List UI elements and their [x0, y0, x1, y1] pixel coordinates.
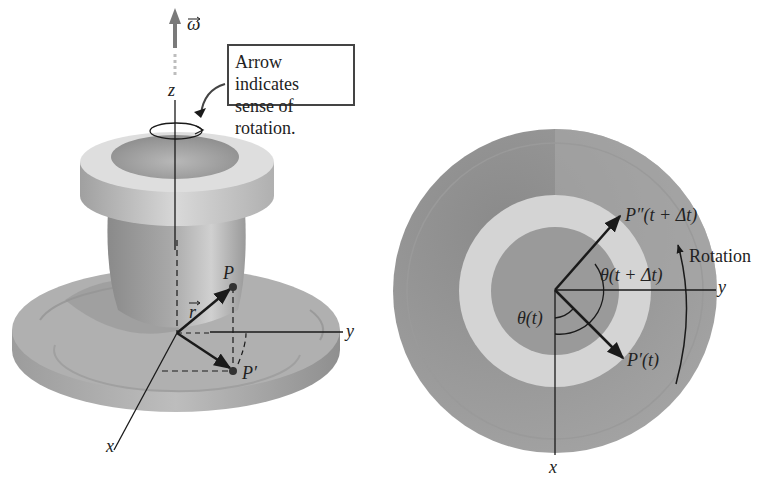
- x-axis-top-label: x: [549, 458, 557, 476]
- rotation-callout-box: Arrow indicates sense of rotation.: [227, 44, 355, 106]
- p-prime-t-label: P′(t): [627, 351, 659, 369]
- omega-label: ω: [187, 14, 200, 33]
- angular-velocity-arrow: [169, 8, 181, 76]
- callout-line-1: Arrow indicates: [235, 51, 347, 95]
- r-vector-label: r: [189, 303, 196, 321]
- point-p-label: P: [223, 264, 234, 282]
- callout-line-2: sense of rotation.: [235, 95, 347, 139]
- rotation-label: Rotation: [689, 247, 751, 265]
- point-p-prime-label: P′: [242, 364, 257, 382]
- turntable-3d: [12, 132, 340, 412]
- x-axis-label: x: [106, 437, 114, 455]
- p-double-prime-label: P″(t + Δt): [625, 206, 697, 224]
- point-p-prime: [229, 367, 237, 375]
- rotating-body-diagram: Arrow indicates sense of rotation. ω z y…: [0, 0, 781, 488]
- theta-t-plus-dt-label: θ(t + Δt): [600, 266, 663, 284]
- z-axis-label: z: [168, 81, 175, 99]
- y-axis-label: y: [346, 322, 354, 340]
- theta-t-label: θ(t): [517, 309, 543, 327]
- point-p: [229, 283, 237, 291]
- diagram-canvas: [0, 0, 781, 488]
- y-axis-top-label: y: [718, 278, 726, 296]
